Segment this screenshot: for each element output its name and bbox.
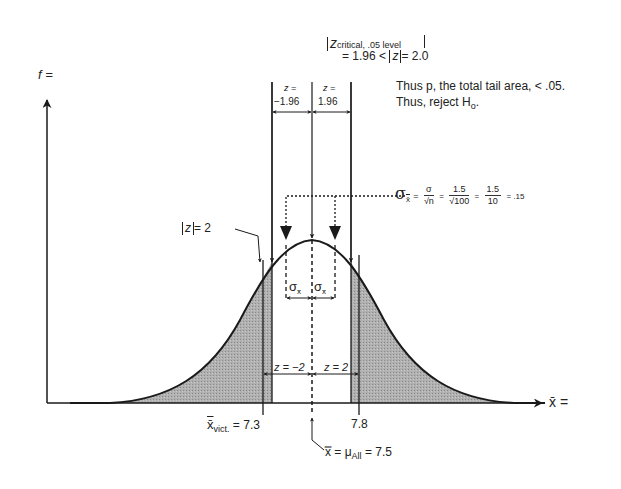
sigma-right-label: σx̄: [314, 280, 326, 298]
standard-error-formula: σx̄ = σ√n = 1.5√100 = 1.510 = .15: [395, 184, 524, 207]
crit-left-label-top: z =: [284, 82, 296, 95]
mirror-mean-label: 7.8: [351, 418, 368, 431]
normal-curve: [70, 240, 545, 403]
critical-z-comparison: = 1.96 < z= 2.0: [342, 50, 428, 63]
normal-curve-diagram: [0, 0, 621, 489]
observed-z-left: z = −2: [274, 361, 305, 374]
mean-leader: [312, 418, 324, 450]
abs-z-label: z= 2: [182, 222, 211, 235]
x-axis-label: x̄ =: [549, 396, 568, 409]
y-axis-label: f =: [38, 68, 53, 81]
observed-z-right: z = 2: [324, 361, 348, 374]
crit-right-label-top: z =: [323, 82, 335, 95]
crit-right-label-bottom: 1.96: [318, 95, 337, 108]
victim-mean-label: x̄vict. = 7.3: [207, 418, 260, 436]
abs-z-leader: [235, 229, 260, 262]
right-tail-shade: [351, 262, 514, 403]
grand-mean-label: x̿ = μAll = 7.5: [325, 446, 392, 463]
conclusion-line-1: Thus p, the total tail area, < .05.: [396, 80, 565, 93]
sigma-left-label: σx̄: [289, 280, 301, 298]
conclusion-line-2: Thus, reject Ho.: [396, 96, 479, 113]
se-dotted-leader: [286, 196, 405, 228]
crit-left-label-bottom: −1.96: [274, 95, 299, 108]
left-tail-shade: [110, 262, 272, 403]
